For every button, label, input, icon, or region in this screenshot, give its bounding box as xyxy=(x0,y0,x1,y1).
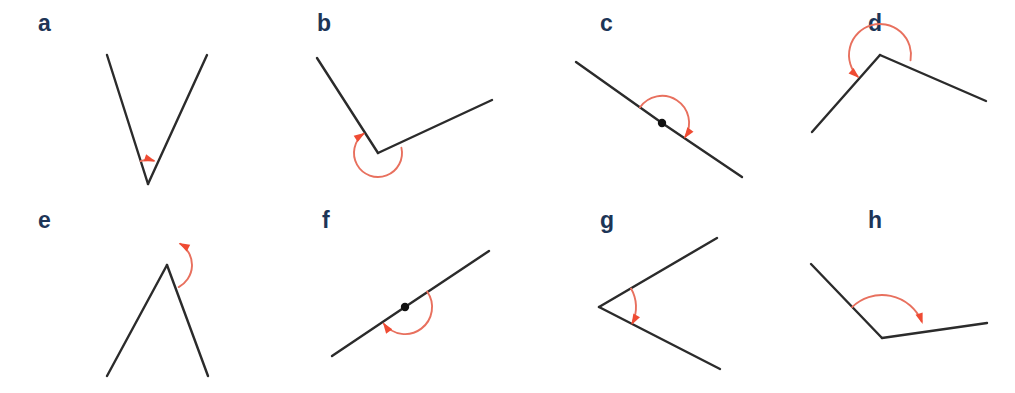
panel-label-b: b xyxy=(317,10,331,36)
panel-label-e: e xyxy=(38,207,51,233)
c-vertex-dot xyxy=(658,119,666,127)
panel-label-c: c xyxy=(600,10,613,36)
panel-label-d: d xyxy=(868,10,882,36)
panel-label-h: h xyxy=(868,207,882,233)
f-vertex-dot xyxy=(401,303,409,311)
angles-figure: abcdefgh xyxy=(0,0,1015,393)
panel-label-f: f xyxy=(322,207,330,233)
panel-label-a: a xyxy=(38,10,51,36)
panel-label-g: g xyxy=(600,207,614,233)
figure-background xyxy=(0,0,1015,393)
